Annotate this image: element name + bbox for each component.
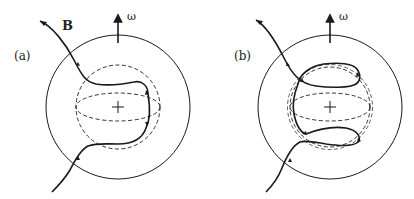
- field-label-B: B: [62, 18, 73, 33]
- field-line-south: [266, 127, 359, 192]
- omega-label: ω: [339, 10, 348, 23]
- center-cross: [324, 101, 336, 113]
- figure: ω (a) B ω (b): [0, 0, 414, 199]
- field-line-north: [256, 20, 360, 134]
- panel-label-a: (a): [14, 49, 31, 63]
- panel-b: ω (b): [234, 10, 402, 192]
- panel-label-b: (b): [234, 49, 251, 63]
- field-line: [40, 21, 149, 192]
- field-direction-tick-icon: [288, 158, 292, 162]
- panel-a: ω (a) B: [14, 10, 190, 192]
- omega-label: ω: [127, 10, 136, 23]
- center-cross: [112, 101, 124, 113]
